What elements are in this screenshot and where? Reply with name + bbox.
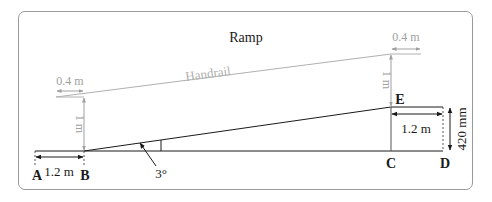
landing-bottom-label: 1.2 m xyxy=(44,164,74,179)
point-c-label: C xyxy=(386,156,396,171)
point-d-label: D xyxy=(440,156,450,171)
handrail-height-right-label: 1 m xyxy=(380,71,394,90)
ramp-diagram: Ramp Handrail 0.4 m 0.4 m 1 m 1 m 1.2 m … xyxy=(0,0,492,202)
handrail-label: Handrail xyxy=(184,63,231,84)
handrail-height-left-label: 1 m xyxy=(73,115,87,134)
angle-label: 3° xyxy=(155,166,167,181)
diagram-title: Ramp xyxy=(229,30,262,45)
handrail-ext-left-label: 0.4 m xyxy=(56,74,84,88)
point-e-label: E xyxy=(395,92,404,107)
angle-pointer xyxy=(140,143,156,166)
ramp-slope xyxy=(84,107,391,151)
point-b-label: B xyxy=(80,168,89,183)
landing-top-label: 1.2 m xyxy=(401,121,431,136)
rise-label: 420 mm xyxy=(454,108,469,151)
handrail-ext-right-label: 0.4 m xyxy=(392,30,420,44)
point-a-label: A xyxy=(32,168,43,183)
